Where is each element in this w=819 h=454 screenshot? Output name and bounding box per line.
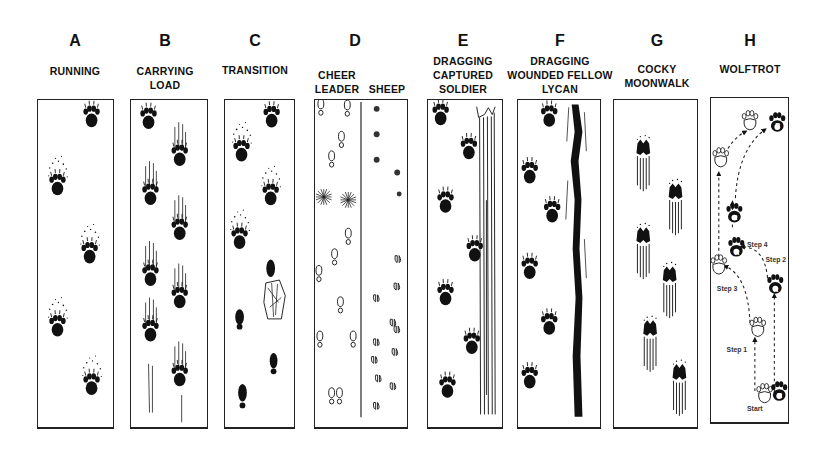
track-a-illustration bbox=[38, 100, 113, 427]
panel-letter-h: H bbox=[744, 32, 756, 50]
step-1-label: Step 1 bbox=[727, 346, 748, 354]
track-d-illustration bbox=[315, 100, 407, 427]
caption-line: SHEEP bbox=[369, 82, 406, 96]
caption-line: LOAD bbox=[136, 78, 193, 92]
caption-line: TRANSITION bbox=[222, 63, 288, 77]
caption-line: CARRYING bbox=[136, 64, 193, 78]
panel-f-dragging-wounded-lycan bbox=[517, 99, 601, 429]
track-e-illustration bbox=[428, 100, 502, 427]
panel-d-cheerleader-sheep bbox=[314, 99, 408, 429]
caption-transition: TRANSITION bbox=[222, 63, 288, 77]
caption-dragging-wounded-fellow-lycan: DRAGGING WOUNDED FELLOW LYCAN bbox=[507, 54, 612, 96]
svg-text:R: R bbox=[732, 214, 737, 221]
panel-letter-e: E bbox=[458, 32, 469, 50]
caption-running: RUNNING bbox=[50, 64, 100, 78]
track-h-illustration: R R R R R Step 4 Step 2 Step 3 Step 1 St… bbox=[711, 98, 788, 422]
panel-h-wolftrot: R R R R R Step 4 Step 2 Step 3 Step 1 St… bbox=[710, 97, 789, 424]
step-3-label: Step 3 bbox=[717, 285, 738, 293]
panel-letter-d: D bbox=[349, 32, 361, 50]
caption-cheer-leader: CHEER LEADER bbox=[315, 68, 359, 96]
panel-letter-g: G bbox=[651, 32, 663, 50]
caption-dragging-captured-soldier: DRAGGING CAPTURED SOLDIER bbox=[433, 54, 493, 96]
svg-text:R: R bbox=[734, 249, 739, 256]
panel-letter-a: A bbox=[69, 32, 81, 50]
caption-line: WOUNDED FELLOW bbox=[507, 68, 612, 82]
panel-b-carrying-load bbox=[130, 99, 208, 429]
panel-a-running bbox=[37, 99, 114, 429]
caption-line: WOLFTROT bbox=[719, 62, 780, 76]
caption-cocky-moonwalk: COCKY MOONWALK bbox=[624, 62, 689, 90]
step-4-label: Step 4 bbox=[747, 241, 768, 249]
panel-letter-f: F bbox=[555, 32, 565, 50]
track-f-illustration bbox=[518, 100, 600, 427]
start-label: Start bbox=[747, 405, 763, 412]
caption-carrying-load: CARRYING LOAD bbox=[136, 64, 193, 92]
drag-marks bbox=[480, 113, 496, 415]
svg-text:R: R bbox=[777, 392, 782, 399]
caption-line: SOLDIER bbox=[433, 82, 493, 96]
panel-letter-b: B bbox=[159, 32, 171, 50]
caption-line: MOONWALK bbox=[624, 76, 689, 90]
caption-line: CHEER bbox=[315, 68, 359, 82]
panel-e-dragging-captured-soldier bbox=[427, 99, 503, 429]
svg-text:R: R bbox=[773, 286, 778, 293]
caption-line: LYCAN bbox=[507, 82, 612, 96]
caption-wolftrot: WOLFTROT bbox=[719, 62, 780, 76]
panel-c-transition bbox=[224, 99, 295, 429]
track-g-illustration bbox=[614, 100, 697, 427]
panel-g-cocky-moonwalk bbox=[613, 99, 698, 429]
caption-line: DRAGGING bbox=[507, 54, 612, 68]
track-c-illustration bbox=[225, 100, 294, 427]
caption-line: RUNNING bbox=[50, 64, 100, 78]
track-b-illustration bbox=[131, 100, 207, 427]
dropped-load-icon bbox=[264, 280, 285, 319]
caption-line: DRAGGING bbox=[433, 54, 493, 68]
caption-line: LEADER bbox=[315, 82, 359, 96]
panel-letter-c: C bbox=[249, 32, 261, 50]
caption-line: COCKY bbox=[624, 62, 689, 76]
caption-sheep: SHEEP bbox=[369, 82, 406, 96]
marker-r: R bbox=[775, 122, 780, 129]
caption-line: CAPTURED bbox=[433, 68, 493, 82]
step-2-label: Step 2 bbox=[766, 256, 787, 264]
